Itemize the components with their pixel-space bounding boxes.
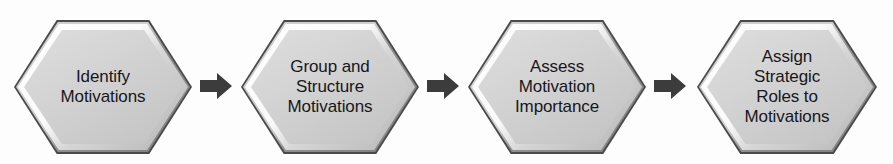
arrow-2-to-3-icon (427, 72, 459, 100)
process-step-3-label: Assess Motivation Importance (468, 20, 646, 154)
process-step-3[interactable]: Assess Motivation Importance (468, 20, 646, 154)
arrow-1-to-2-icon (200, 72, 232, 100)
process-flow-diagram: Identify Motivations Group and Structure… (0, 0, 893, 164)
process-step-4[interactable]: Assign Strategic Roles to Motivations (697, 20, 877, 154)
process-step-1-label: Identify Motivations (14, 20, 192, 154)
arrow-3-to-4-icon (654, 72, 686, 100)
process-step-4-label: Assign Strategic Roles to Motivations (697, 20, 877, 154)
process-step-2-label: Group and Structure Motivations (241, 20, 419, 154)
process-step-2[interactable]: Group and Structure Motivations (241, 20, 419, 154)
process-step-1[interactable]: Identify Motivations (14, 20, 192, 154)
